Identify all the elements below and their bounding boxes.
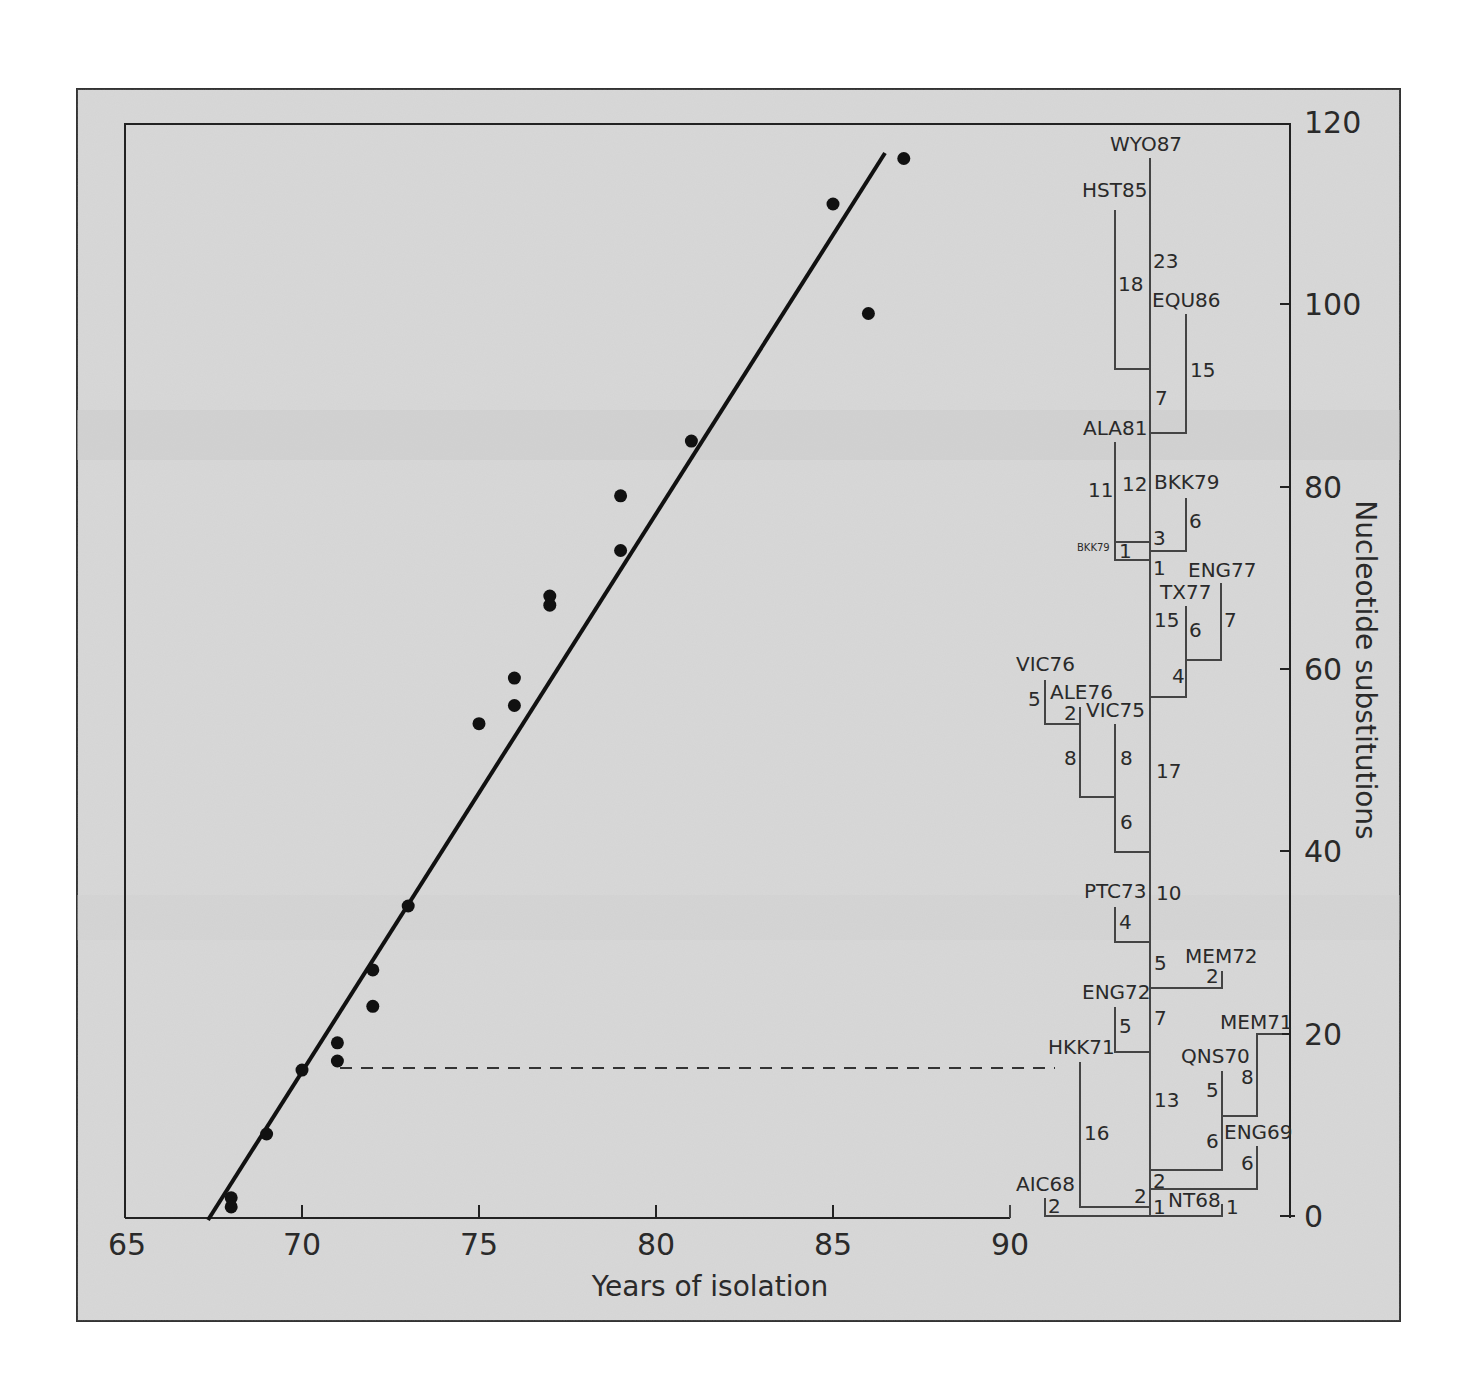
data-point <box>508 699 521 712</box>
branch-1: 1 <box>1153 556 1166 580</box>
y-axis-label: Nucleotide substitutions <box>1349 500 1382 839</box>
branch-17: 17 <box>1156 759 1181 783</box>
branch-11: 11 <box>1088 478 1113 502</box>
leaf-ptc73: PTC73 <box>1084 879 1147 903</box>
x-tick-90: 90 <box>991 1227 1029 1262</box>
branch-18: 18 <box>1118 272 1143 296</box>
branch-10: 10 <box>1156 881 1181 905</box>
branch-1: 1 <box>1153 1195 1166 1219</box>
leaf-hkk71: HKK71 <box>1048 1035 1115 1059</box>
y-tick-0: 0 <box>1304 1199 1323 1234</box>
data-point <box>473 717 486 730</box>
branch-16: 16 <box>1084 1121 1109 1145</box>
leaf-tx77: TX77 <box>1159 580 1211 604</box>
branch-5: 5 <box>1206 1078 1219 1102</box>
x-tick-75: 75 <box>460 1227 498 1262</box>
data-point <box>614 544 627 557</box>
data-point <box>331 1055 344 1068</box>
leaf-wyo87: WYO87 <box>1110 132 1182 156</box>
branch-4: 4 <box>1172 664 1185 688</box>
leaf-eng72: ENG72 <box>1082 980 1151 1004</box>
data-point <box>225 1200 238 1213</box>
branch-5: 5 <box>1119 1014 1132 1038</box>
x-axis-label: Years of isolation <box>591 1270 829 1303</box>
y-tick-20: 20 <box>1304 1017 1342 1052</box>
leaf-eng77: ENG77 <box>1188 558 1257 582</box>
leaf-vic75: VIC75 <box>1086 698 1145 722</box>
branch-23: 23 <box>1153 249 1178 273</box>
x-tick-65: 65 <box>108 1227 146 1262</box>
data-point <box>614 489 627 502</box>
data-point <box>331 1036 344 1049</box>
branch-2: 2 <box>1064 701 1077 725</box>
leaf-nt68: NT68 <box>1168 1188 1221 1212</box>
x-tick-70: 70 <box>283 1227 321 1262</box>
branch-5: 5 <box>1028 687 1041 711</box>
leaf-bkk79: BKK79 <box>1154 470 1219 494</box>
leaf-eng69: ENG69 <box>1224 1120 1293 1144</box>
branch-2: 2 <box>1134 1184 1147 1208</box>
x-tick-80: 80 <box>637 1227 675 1262</box>
leaf-mem71: MEM71 <box>1220 1010 1293 1034</box>
data-point <box>402 900 415 913</box>
data-point <box>260 1128 273 1141</box>
branch-6: 6 <box>1120 810 1133 834</box>
branch-7: 7 <box>1224 608 1237 632</box>
branch-5: 5 <box>1154 951 1167 975</box>
branch-4: 4 <box>1119 910 1132 934</box>
data-point <box>543 599 556 612</box>
leaf-vic76: VIC76 <box>1016 652 1075 676</box>
data-point <box>827 198 840 211</box>
branch-6: 6 <box>1189 509 1202 533</box>
branch-8: 8 <box>1064 746 1077 770</box>
branch-6: 6 <box>1241 1151 1254 1175</box>
leaf-bkk79-small: BKK79 <box>1077 542 1110 553</box>
chart-figure: 65 70 75 80 85 90 Years of isolation 0 2… <box>0 0 1461 1393</box>
branch-8: 8 <box>1120 746 1133 770</box>
y-tick-80: 80 <box>1304 470 1342 505</box>
branch-2: 2 <box>1153 1169 1166 1193</box>
branch-3: 3 <box>1153 526 1166 550</box>
leaf-mem72: MEM72 <box>1185 944 1258 968</box>
branch-1: 1 <box>1226 1195 1239 1219</box>
data-point <box>508 672 521 685</box>
branch-15: 15 <box>1154 608 1179 632</box>
data-point <box>862 307 875 320</box>
branch-2: 2 <box>1206 964 1219 988</box>
branch-15: 15 <box>1190 358 1215 382</box>
x-tick-85: 85 <box>814 1227 852 1262</box>
data-point <box>897 152 910 165</box>
leaf-aic68: AIC68 <box>1016 1172 1075 1196</box>
leaf-hst85: HST85 <box>1082 178 1147 202</box>
branch-12: 12 <box>1122 472 1147 496</box>
data-point <box>366 1000 379 1013</box>
branch-8: 8 <box>1241 1065 1254 1089</box>
leaf-qns70: QNS70 <box>1181 1044 1250 1068</box>
data-point <box>296 1064 309 1077</box>
data-point <box>366 963 379 976</box>
leaf-ala81: ALA81 <box>1083 416 1147 440</box>
branch-1: 1 <box>1119 539 1132 563</box>
branch-13: 13 <box>1154 1088 1179 1112</box>
branch-6: 6 <box>1206 1129 1219 1153</box>
y-tick-60: 60 <box>1304 652 1342 687</box>
branch-7: 7 <box>1154 1006 1167 1030</box>
branch-2: 2 <box>1048 1194 1061 1218</box>
leaf-equ86: EQU86 <box>1152 288 1220 312</box>
branch-7: 7 <box>1155 386 1168 410</box>
branch-6: 6 <box>1189 618 1202 642</box>
y-tick-40: 40 <box>1304 834 1342 869</box>
y-tick-100: 100 <box>1304 287 1361 322</box>
y-tick-120: 120 <box>1304 105 1361 140</box>
data-point <box>685 435 698 448</box>
